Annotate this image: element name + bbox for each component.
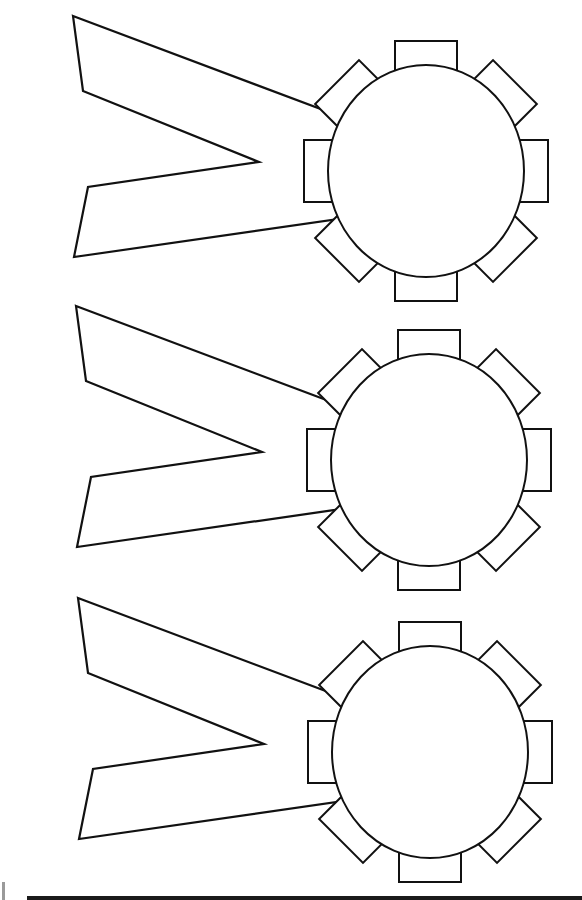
ribbon-tails [73, 16, 342, 257]
ribbon-badge-2 [76, 306, 551, 590]
rosette-circle [331, 354, 527, 566]
ribbon-badge-1 [73, 16, 548, 301]
ribbon-template-sheet [0, 0, 582, 900]
ribbon-tails [78, 598, 347, 839]
rosette-circle [328, 65, 524, 277]
ribbon-tails [76, 306, 345, 547]
ribbon-badge-3 [78, 598, 552, 882]
corner-mark [2, 882, 5, 900]
rosette-circle [332, 646, 528, 858]
bottom-rule [27, 896, 582, 900]
